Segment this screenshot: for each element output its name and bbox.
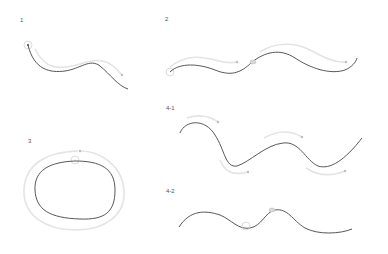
- mid-handle: [250, 60, 256, 64]
- circle-marker-2: [269, 208, 275, 212]
- panel-1: 1: [20, 17, 128, 89]
- guide-arrow-2: [260, 44, 346, 62]
- closed-stroke-path: [35, 161, 115, 219]
- panel-label-3: 3: [28, 138, 32, 144]
- stroke-path: [179, 210, 352, 233]
- arrow-head-dot-2: [345, 61, 347, 63]
- stroke-path: [28, 45, 128, 89]
- arrow-head-dot-2: [301, 136, 303, 138]
- panel-label-1: 1: [20, 17, 24, 23]
- panel-2: 2: [165, 16, 357, 76]
- arrow-head-dot-4: [344, 170, 346, 172]
- arrow-head-dot-1: [236, 61, 238, 63]
- diagram-canvas: 1 2 3 4-1 4-2: [0, 0, 388, 254]
- panel-label-4-1: 4-1: [166, 105, 175, 111]
- panel-3: 3: [24, 138, 124, 230]
- stroke-path: [170, 52, 357, 73]
- panel-label-2: 2: [165, 16, 169, 22]
- start-point: [27, 44, 29, 46]
- guide-arrow-2: [264, 132, 302, 138]
- start-marker: [71, 156, 79, 164]
- panel-label-4-2: 4-2: [166, 188, 175, 194]
- guide-arrow-4: [306, 168, 345, 175]
- stroke-path: [180, 123, 362, 167]
- outer-guide-loop: [24, 151, 124, 230]
- panel-4-1: 4-1: [166, 105, 362, 175]
- arrow-head-dot: [121, 74, 123, 76]
- arrow-head-dot-1: [217, 121, 219, 123]
- circle-marker-1: [242, 222, 250, 230]
- guide-arrow-3: [220, 160, 248, 174]
- panel-4-2: 4-2: [166, 188, 352, 233]
- guide-arrow-1: [187, 116, 218, 122]
- guide-arrow-1: [170, 57, 237, 67]
- arrow-head-dot: [79, 150, 81, 152]
- guide-arrow: [35, 49, 122, 75]
- arrow-head-dot-3: [247, 171, 249, 173]
